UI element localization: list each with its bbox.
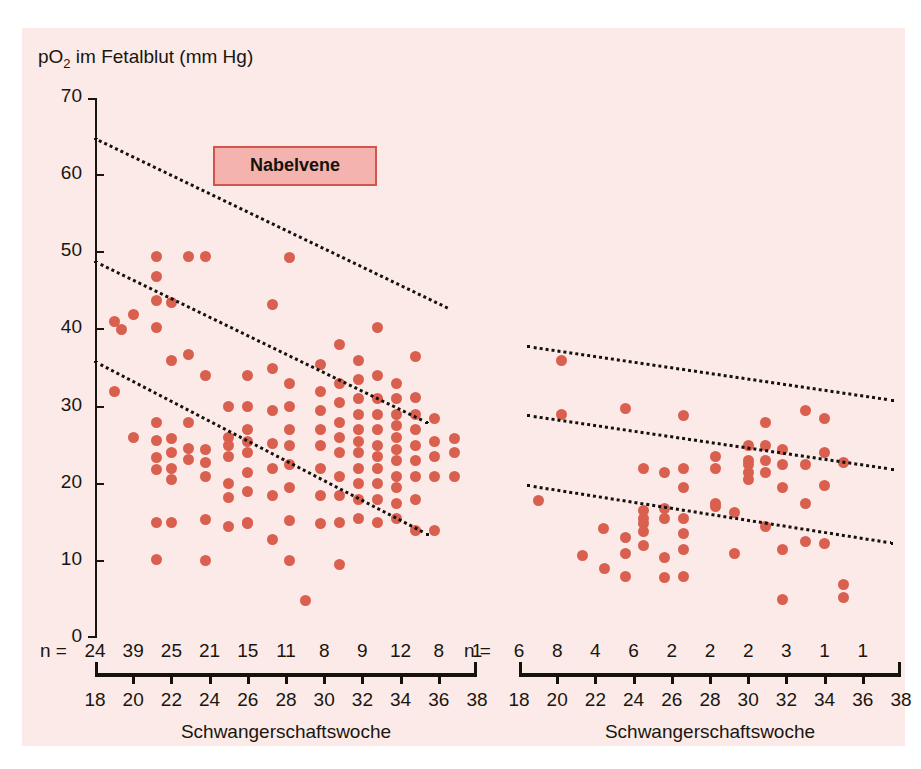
data-point <box>729 548 740 559</box>
data-point <box>777 594 788 605</box>
data-point <box>533 495 544 506</box>
data-point <box>449 471 460 482</box>
data-point <box>372 517 383 528</box>
data-point <box>223 521 234 532</box>
x-axis-tick-label: 38 <box>881 689 921 711</box>
data-point <box>315 424 326 435</box>
data-point <box>151 417 162 428</box>
x-axis-tick-label: 28 <box>690 689 730 711</box>
x-axis-tick-label: 26 <box>228 689 268 711</box>
x-axis-tick <box>556 673 559 684</box>
data-point <box>429 525 440 536</box>
x-axis-tick-label: 26 <box>652 689 692 711</box>
panel-nabelvene: Nabelvene <box>22 28 482 746</box>
n-value: 21 <box>190 640 230 662</box>
x-axis-tick-label: 20 <box>113 689 153 711</box>
data-point <box>183 443 194 454</box>
data-point <box>284 440 295 451</box>
data-point <box>678 544 689 555</box>
data-point <box>743 474 754 485</box>
x-axis-tick <box>438 673 441 684</box>
y-axis-tick <box>95 174 104 176</box>
data-point <box>353 513 364 524</box>
data-point <box>183 251 194 262</box>
x-axis-tick <box>285 673 288 684</box>
data-point <box>151 517 162 528</box>
data-point <box>410 440 421 451</box>
n-value: 11 <box>266 640 306 662</box>
data-point <box>353 355 364 366</box>
data-point <box>267 490 278 501</box>
data-point <box>638 463 649 474</box>
x-axis-tick-label: 18 <box>75 689 115 711</box>
data-point <box>638 526 649 537</box>
data-point <box>659 552 670 563</box>
data-point <box>372 440 383 451</box>
data-point <box>151 322 162 333</box>
y-axis-tick <box>95 483 104 485</box>
data-point <box>800 498 811 509</box>
data-point <box>200 457 211 468</box>
data-point <box>372 409 383 420</box>
y-axis-tick-label: 30 <box>36 394 82 416</box>
data-point <box>659 467 670 478</box>
data-point <box>315 463 326 474</box>
n-value: 9 <box>342 640 382 662</box>
n-value: 2 <box>652 640 692 662</box>
n-value: 12 <box>381 640 421 662</box>
data-point <box>838 579 849 590</box>
data-point <box>334 432 345 443</box>
y-axis-tick <box>95 560 104 562</box>
data-point <box>638 540 649 551</box>
x-axis-tick <box>785 673 788 684</box>
x-axis-tick <box>323 673 326 684</box>
data-point <box>760 467 771 478</box>
figure-canvas: pO2 im Fetalblut (mm Hg) Nabelvene Nabel… <box>22 28 905 746</box>
data-point <box>353 409 364 420</box>
data-point <box>410 471 421 482</box>
data-point <box>200 251 211 262</box>
data-point <box>659 572 670 583</box>
data-point <box>800 536 811 547</box>
n-value: 25 <box>151 640 191 662</box>
y-axis-tick <box>95 406 104 408</box>
data-point <box>819 480 830 491</box>
data-point <box>678 482 689 493</box>
data-point <box>267 463 278 474</box>
x-axis-tick-label: 32 <box>342 689 382 711</box>
data-point <box>353 463 364 474</box>
x-axis-tick <box>170 673 173 684</box>
data-point <box>183 454 194 465</box>
data-point <box>151 435 162 446</box>
n-value: 3 <box>766 640 806 662</box>
data-point <box>315 490 326 501</box>
data-point <box>315 440 326 451</box>
y-axis-tick-label: 60 <box>36 162 82 184</box>
n-value: 4 <box>575 640 615 662</box>
data-point <box>659 513 670 524</box>
data-point <box>267 405 278 416</box>
x-axis-tick-label: 28 <box>266 689 306 711</box>
data-point <box>372 322 383 333</box>
data-point <box>410 494 421 505</box>
x-axis-tick-label: 20 <box>537 689 577 711</box>
data-point <box>800 405 811 416</box>
data-point <box>151 554 162 565</box>
x-axis-tick-label: 24 <box>614 689 654 711</box>
data-point <box>372 494 383 505</box>
n-value: 8 <box>537 640 577 662</box>
data-point <box>334 517 345 528</box>
data-point <box>151 251 162 262</box>
data-point <box>760 455 771 466</box>
data-point <box>760 417 771 428</box>
panel-nabelarterie: Nabelarterie <box>462 28 905 746</box>
x-axis-tick-label: 36 <box>843 689 883 711</box>
data-point <box>777 544 788 555</box>
x-axis-tick <box>594 673 597 684</box>
n-value: 2 <box>690 640 730 662</box>
data-point <box>200 471 211 482</box>
data-point <box>151 464 162 475</box>
data-point <box>200 514 211 525</box>
data-point <box>334 471 345 482</box>
data-point <box>267 534 278 545</box>
